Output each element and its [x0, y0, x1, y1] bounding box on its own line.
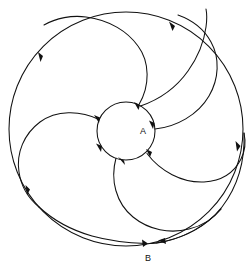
arrowhead-inner-w [94, 115, 100, 123]
figure-container: A B [0, 0, 252, 271]
spiral-arm-4 [114, 158, 221, 231]
spiral-arm-5 [18, 113, 99, 207]
arrowhead-outer-bottom-b [142, 240, 148, 248]
spiral-arm-diagram: A B [0, 0, 252, 271]
spiral-arm-1 [44, 16, 147, 104]
arrowhead-inner-ne [134, 102, 140, 110]
inner-circle [97, 102, 155, 160]
arrowhead-inner-s [118, 157, 125, 165]
spiral-arm-2 [155, 15, 217, 129]
label-a: A [140, 126, 146, 136]
arrowhead-outer-top [169, 22, 175, 32]
outer-sweep-left-bottom [39, 207, 146, 244]
arrowhead-outer-upper-left [38, 52, 43, 62]
arrowhead-outer-right [236, 141, 241, 152]
spiral-arm-3 [147, 133, 245, 182]
outer-sweep-to-b-2 [149, 209, 221, 244]
arrowhead-inner-sw [96, 144, 102, 153]
spiral-arm-1b [141, 9, 207, 106]
label-b: B [145, 253, 151, 263]
